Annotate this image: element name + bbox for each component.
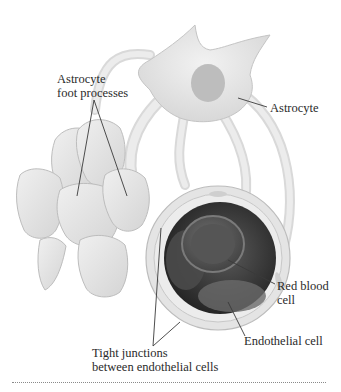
label-tight-junctions: Tight junctions between endothelial cell… <box>92 346 218 374</box>
label-endothelial-cell: Endothelial cell <box>244 334 323 348</box>
blood-brain-barrier-diagram: Astrocyte foot processes Astrocyte Red b… <box>0 0 341 392</box>
label-astrocyte-foot-processes: Astrocyte foot processes <box>57 72 128 100</box>
label-red-blood-cell: Red blood cell <box>277 279 329 307</box>
dotted-divider <box>12 382 326 383</box>
label-astrocyte: Astrocyte <box>270 101 319 115</box>
astrocyte-nucleus <box>191 64 225 102</box>
